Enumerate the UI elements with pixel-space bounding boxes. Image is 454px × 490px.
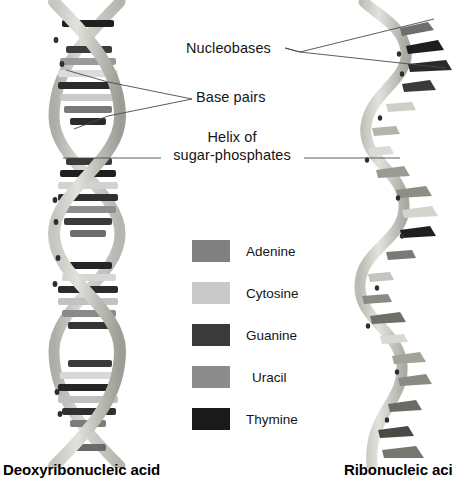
legend-row: Adenine xyxy=(192,230,322,272)
callout-nucleobases: Nucleobases xyxy=(186,40,271,58)
rna-single-strand-illustration xyxy=(342,0,454,468)
rna-nucleobases xyxy=(362,22,452,458)
caption-ribonucleic-acid: Ribonucleic aci xyxy=(344,461,453,478)
legend-color-swatch xyxy=(192,282,230,304)
diagram-canvas: Nucleobases Base pairs Helix of sugar-ph… xyxy=(0,0,454,490)
legend-label: Cytosine xyxy=(246,286,299,301)
callout-base-pairs: Base pairs xyxy=(196,89,266,107)
legend-row: Guanine xyxy=(192,314,322,356)
legend-label: Adenine xyxy=(246,244,296,259)
legend-label: Thymine xyxy=(246,412,298,427)
callout-helix-line-1: Helix of xyxy=(161,129,303,147)
legend-row: Cytosine xyxy=(192,272,322,314)
legend-label: Guanine xyxy=(246,328,297,343)
legend-row: Thymine xyxy=(192,398,322,440)
legend-color-swatch xyxy=(192,366,230,388)
legend-color-swatch xyxy=(192,408,230,430)
legend-row: Uracil xyxy=(192,356,322,398)
legend-color-swatch xyxy=(192,240,230,262)
nucleobase-legend: AdenineCytosineGuanineUracilThymine xyxy=(192,230,322,440)
callout-helix-of-sugar-phosphates: Helix of sugar-phosphates xyxy=(161,129,303,164)
dna-double-helix-illustration xyxy=(22,0,152,468)
rna-backbone xyxy=(360,2,406,466)
caption-deoxyribonucleic-acid: Deoxyribonucleic acid xyxy=(3,461,160,478)
legend-color-swatch xyxy=(192,324,230,346)
callout-helix-line-2: sugar-phosphates xyxy=(161,147,303,165)
legend-label: Uracil xyxy=(252,370,287,385)
